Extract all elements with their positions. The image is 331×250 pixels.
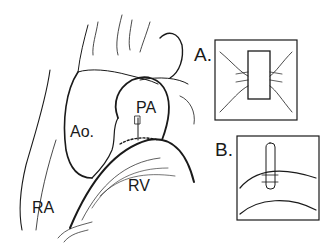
label-aorta: Ao. xyxy=(70,124,94,140)
label-pulmonary-artery: PA xyxy=(136,100,156,116)
surgical-illustration: Ao. PA RV RA A. B. xyxy=(0,0,331,250)
label-right-atrium: RA xyxy=(32,200,54,216)
inset-b-label: B. xyxy=(215,140,233,159)
label-right-ventricle: RV xyxy=(128,178,150,194)
inset-a-label: A. xyxy=(194,45,212,64)
